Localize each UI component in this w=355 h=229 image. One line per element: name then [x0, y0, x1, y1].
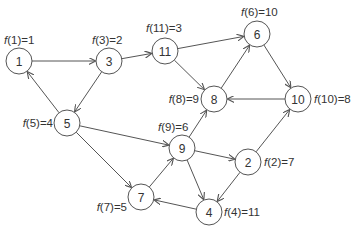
edge-6-to-10 — [264, 45, 291, 87]
node-5: 5 — [54, 110, 80, 136]
edge-3-to-11 — [122, 54, 151, 59]
f-value-label-5: f(5)=4 — [23, 117, 54, 129]
f-value-label-1: f(1)=1 — [4, 34, 34, 46]
node-7: 7 — [128, 184, 154, 210]
node-label: 6 — [254, 28, 261, 42]
node-label: 10 — [291, 93, 305, 107]
f-value-label-11: f(11)=3 — [146, 22, 182, 34]
directed-graph-diagram: 1311681059274 f(1)=1f(3)=2f(11)=3f(6)=10… — [0, 0, 355, 229]
edge-2-to-10 — [256, 110, 289, 152]
edge-2-to-4 — [218, 172, 240, 201]
node-6: 6 — [244, 21, 270, 47]
edge-4-to-7 — [155, 200, 197, 209]
f-value-label-10: f(10)=8 — [314, 93, 351, 105]
edge-9-to-8 — [189, 111, 206, 137]
edge-8-to-6 — [221, 46, 249, 88]
edge-5-to-1 — [28, 72, 59, 113]
node-label: 3 — [106, 55, 113, 69]
node-label: 8 — [211, 93, 218, 107]
f-value-label-6: f(6)=10 — [241, 6, 278, 18]
node-1: 1 — [6, 48, 32, 74]
node-8: 8 — [201, 86, 227, 112]
node-label: 7 — [138, 191, 145, 205]
edge-5-to-7 — [76, 132, 131, 187]
edge-9-to-4 — [187, 160, 204, 199]
node-10: 10 — [285, 86, 311, 112]
f-value-label-3: f(3)=2 — [92, 34, 122, 46]
node-label: 11 — [159, 45, 172, 59]
node-11: 11 — [152, 38, 178, 64]
node-label: 5 — [64, 117, 71, 131]
node-label: 9 — [179, 142, 186, 156]
edge-3-to-5 — [75, 72, 102, 112]
f-value-label-4: f(4)=11 — [224, 206, 260, 218]
node-2: 2 — [235, 149, 261, 175]
node-9: 9 — [169, 135, 195, 161]
edge-11-to-6 — [178, 37, 243, 49]
node-label: 4 — [206, 206, 213, 220]
edge-9-to-2 — [195, 151, 235, 159]
edge-7-to-9 — [149, 159, 173, 187]
f-value-label-2: f(2)=7 — [264, 156, 294, 168]
f-value-label-8: f(8)=9 — [169, 93, 199, 105]
node-4: 4 — [196, 199, 222, 225]
edge-5-to-9 — [80, 126, 169, 145]
node-3: 3 — [96, 48, 122, 74]
node-label: 2 — [245, 156, 252, 170]
node-label: 1 — [16, 55, 23, 69]
f-value-label-7: f(7)=5 — [97, 201, 127, 213]
edge-11-to-8 — [174, 60, 204, 89]
f-value-label-9: f(9)=6 — [158, 121, 188, 133]
